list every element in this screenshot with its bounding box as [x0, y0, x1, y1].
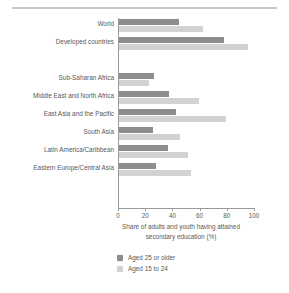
bar-aged-15-to-24	[119, 116, 226, 122]
x-tick-label: 60	[196, 212, 203, 220]
bar-row-spacer	[0, 54, 289, 72]
x-axis-label-line1: Share of adults and youth having attaine…	[96, 222, 266, 232]
bar-row: World	[0, 18, 289, 36]
x-axis-line	[118, 208, 254, 209]
bar-group	[119, 127, 279, 143]
bar-group	[119, 145, 279, 161]
bar-aged-25-or-older	[119, 109, 176, 115]
bar-aged-25-or-older	[119, 91, 169, 97]
bar-rows: WorldDeveloped countriesSub-Saharan Afri…	[0, 18, 289, 180]
category-label: East Asia and the Pacific	[2, 110, 114, 118]
category-label: Developed countries	[2, 38, 114, 46]
bar-row: East Asia and the Pacific	[0, 108, 289, 126]
bar-row: Developed countries	[0, 36, 289, 54]
bar-group	[119, 73, 279, 89]
x-tick-label: 40	[169, 212, 176, 220]
x-tick-label: 0	[116, 212, 120, 220]
plot-area: WorldDeveloped countriesSub-Saharan Afri…	[0, 18, 289, 208]
bar-group	[119, 91, 279, 107]
bar-aged-15-to-24	[119, 44, 248, 50]
legend-item[interactable]: Aged 25 or older	[117, 252, 175, 263]
category-label: Middle East and North Africa	[2, 92, 114, 100]
x-tick-mark	[145, 208, 146, 211]
category-label: Eastern Europe/Central Asia	[2, 164, 114, 172]
bar-aged-15-to-24	[119, 170, 191, 176]
bar-aged-25-or-older	[119, 127, 153, 133]
bar-row: Middle East and North Africa	[0, 90, 289, 108]
legend-item[interactable]: Aged 15 to 24	[117, 263, 175, 274]
x-tick-mark	[254, 208, 255, 211]
x-tick-label: 20	[142, 212, 149, 220]
category-label: Latin America/Caribbean	[2, 146, 114, 154]
top-divider	[12, 7, 277, 9]
bar-aged-15-to-24	[119, 98, 199, 104]
bar-row: Eastern Europe/Central Asia	[0, 162, 289, 180]
legend-swatch-icon	[117, 255, 123, 261]
x-tick-mark	[200, 208, 201, 211]
x-tick-mark	[118, 208, 119, 211]
bar-aged-25-or-older	[119, 163, 156, 169]
x-tick-label: 100	[249, 212, 260, 220]
category-label: South Asia	[2, 128, 114, 136]
category-label: Sub-Saharan Africa	[2, 74, 114, 82]
chart-legend: Aged 25 or olderAged 15 to 24	[117, 252, 175, 274]
bar-aged-15-to-24	[119, 134, 180, 140]
bar-group	[119, 109, 279, 125]
bar-row: South Asia	[0, 126, 289, 144]
x-axis-label-line2: secondary education (%)	[96, 232, 266, 242]
legend-label: Aged 15 to 24	[128, 265, 168, 273]
category-label: World	[2, 20, 114, 28]
bar-row: Sub-Saharan Africa	[0, 72, 289, 90]
bar-group	[119, 163, 279, 179]
chart-figure: WorldDeveloped countriesSub-Saharan Afri…	[0, 0, 289, 293]
x-axis-label: Share of adults and youth having attaine…	[96, 222, 266, 241]
legend-swatch-icon	[117, 266, 123, 272]
x-tick-label: 80	[223, 212, 230, 220]
bar-aged-25-or-older	[119, 145, 168, 151]
bar-aged-15-to-24	[119, 80, 149, 86]
x-tick-mark	[172, 208, 173, 211]
x-tick-mark	[227, 208, 228, 211]
bar-group	[119, 19, 279, 35]
legend-label: Aged 25 or older	[128, 254, 175, 262]
bar-aged-15-to-24	[119, 26, 203, 32]
bar-aged-25-or-older	[119, 19, 179, 25]
bar-row: Latin America/Caribbean	[0, 144, 289, 162]
bar-aged-25-or-older	[119, 37, 224, 43]
bar-aged-15-to-24	[119, 152, 188, 158]
bar-group	[119, 37, 279, 53]
bar-aged-25-or-older	[119, 73, 154, 79]
